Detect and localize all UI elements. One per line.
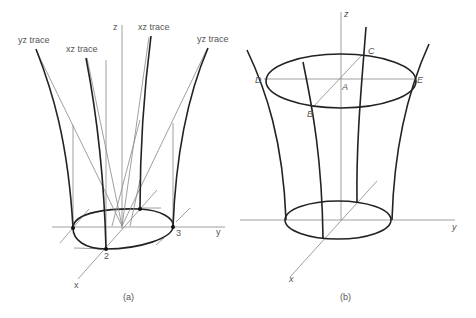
point-D-label: D [255, 75, 262, 85]
point-B-label: B [307, 109, 313, 119]
trace-C-b [357, 27, 366, 202]
x-label-a: x [74, 280, 79, 290]
line-BC [313, 55, 362, 107]
panel-b: z y x A B C D E (b) [240, 9, 457, 302]
yz-trace-left-label: yz trace [18, 35, 50, 45]
z-label-a: z [113, 22, 118, 32]
caption-a: (a) [123, 292, 134, 302]
panel-a: z y x yz trace xz trace xz trace yz trac… [18, 22, 229, 302]
xz-trace-left-curve [86, 58, 106, 249]
yz-trace-right-curve [173, 48, 208, 227]
tangent-line-3 [176, 208, 190, 222]
x-axis-b [290, 181, 377, 277]
point-C-label: C [368, 46, 375, 56]
y-label-a: y [216, 227, 221, 237]
point-4 [138, 207, 142, 211]
trace-left-b [247, 50, 286, 220]
ruling-6 [130, 180, 140, 226]
trace-B-b [303, 62, 323, 238]
z-label-b: z [343, 9, 349, 19]
x-label-b: x [288, 274, 294, 284]
xz-trace-left-label: xz trace [66, 44, 98, 54]
point-A-label: A [341, 82, 348, 92]
point-3 [171, 225, 175, 229]
xz-trace-right-label: xz trace [138, 22, 170, 32]
ruling-1 [36, 50, 122, 226]
y-label-b: y [451, 222, 457, 232]
point-3-label: 3 [176, 228, 181, 238]
point-E-label: E [417, 75, 424, 85]
ruling-5 [112, 120, 140, 226]
yz-trace-right-label: yz trace [197, 34, 229, 44]
tangent-line-1 [60, 209, 89, 243]
yz-trace-left-curve [36, 49, 73, 228]
caption-b: (b) [340, 292, 351, 302]
point-1 [71, 226, 75, 230]
point-2-label: 2 [104, 251, 109, 261]
hyperboloid-figure: z y x yz trace xz trace xz trace yz trac… [0, 0, 476, 318]
